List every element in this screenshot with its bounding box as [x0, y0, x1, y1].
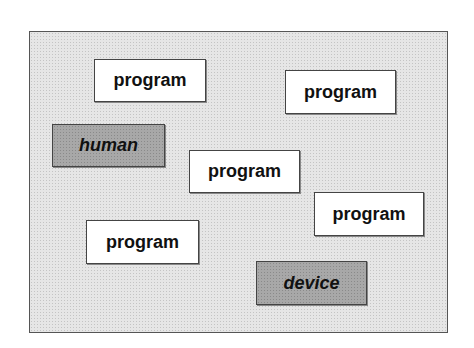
node-label: human [79, 135, 138, 156]
node-label: program [106, 232, 179, 253]
program-node-top-right: program [285, 70, 396, 114]
node-label: program [304, 82, 377, 103]
device-node: device [256, 261, 367, 305]
node-label: device [283, 273, 339, 294]
node-label: program [208, 161, 281, 182]
program-node-center: program [189, 150, 300, 193]
human-node: human [52, 124, 165, 167]
node-label: program [332, 204, 405, 225]
program-node-bottom-left: program [86, 220, 199, 264]
node-label: program [113, 70, 186, 91]
program-node-top-left: program [94, 59, 206, 102]
program-node-right: program [314, 192, 424, 236]
